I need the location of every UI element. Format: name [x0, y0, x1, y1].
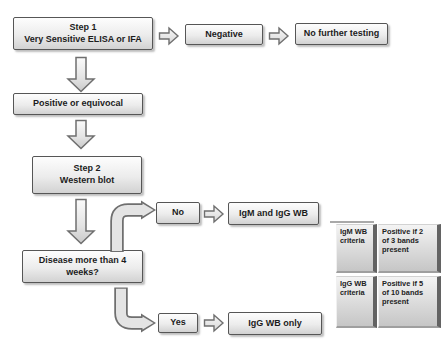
criteria-cell-igm-value: Positive if 2 of 3 bands present — [378, 224, 441, 273]
criteria-cell-igm-label: IgM WB criteria — [336, 224, 377, 273]
block-arrow-right-icon — [203, 313, 225, 333]
node-positive-or-equivocal: Positive or equivocal — [13, 93, 143, 115]
node-disease-duration: Disease more than 4 weeks? — [22, 250, 143, 283]
node-yes: Yes — [158, 313, 198, 333]
node-negative: Negative — [185, 24, 263, 45]
block-arrow-down-icon — [66, 198, 96, 245]
node-step2: Step 2 Western blot — [32, 156, 142, 194]
node-no: No — [156, 202, 200, 224]
criteria-cell-igg-value: Positive if 5 of 10 bands present — [378, 276, 441, 328]
block-arrow-right-icon — [268, 26, 290, 46]
flowchart-canvas: Step 1 Very Sensitive ELISA or IFA Negat… — [0, 0, 448, 345]
block-arrow-right-icon — [158, 26, 180, 46]
table-top-rule — [330, 221, 374, 223]
node-igm-and-igg-wb: IgM and IgG WB — [228, 202, 319, 225]
criteria-cell-igg-label: IgG WB criteria — [336, 276, 377, 328]
node-step1: Step 1 Very Sensitive ELISA or IFA — [13, 17, 153, 50]
elbow-arrow-up-right-icon — [104, 198, 158, 252]
node-no-further-testing: No further testing — [295, 23, 388, 45]
block-arrow-down-icon — [66, 119, 96, 150]
block-arrow-right-icon — [203, 204, 225, 224]
node-igg-wb-only: IgG WB only — [228, 312, 322, 335]
block-arrow-down-icon — [66, 56, 96, 93]
elbow-arrow-down-right-icon — [108, 287, 158, 334]
